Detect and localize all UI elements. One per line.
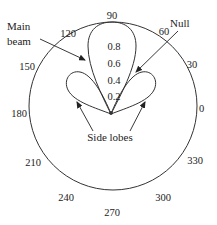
radiation-pattern-diagram: 90 60 30 0 330 300 270 240 210 180 150 1… [0, 0, 217, 225]
null-arrow [136, 31, 178, 72]
side-lobes-label: Side lobes [87, 131, 133, 143]
angle-label-60: 60 [159, 26, 170, 37]
angle-label-210: 210 [25, 157, 41, 168]
angle-label-330: 330 [187, 155, 203, 166]
null-label: Null [170, 17, 190, 29]
angle-label-150: 150 [19, 61, 35, 72]
angle-label-120: 120 [60, 28, 76, 39]
main-beam-label-line1: Main [7, 20, 31, 32]
main-beam-arrow [40, 39, 85, 60]
side-lobe-right-arrow [130, 102, 145, 131]
angle-label-30: 30 [187, 59, 198, 70]
radial-label-0.8: 0.8 [107, 41, 120, 52]
angle-label-90: 90 [107, 10, 118, 21]
main-beam-label-line2: beam [7, 35, 31, 47]
left-side-lobe [66, 72, 111, 114]
angle-label-180: 180 [11, 108, 27, 119]
angle-label-270: 270 [104, 207, 120, 218]
radial-label-0.2: 0.2 [107, 91, 120, 102]
radial-label-0.6: 0.6 [107, 58, 120, 69]
angle-label-300: 300 [155, 192, 171, 203]
angle-label-240: 240 [58, 192, 74, 203]
angle-label-0: 0 [199, 103, 204, 114]
radial-label-0.4: 0.4 [107, 75, 121, 86]
